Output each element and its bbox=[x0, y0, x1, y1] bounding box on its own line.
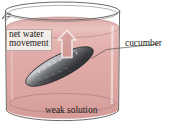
osmosis-diagram: net water movement cucumber weak solutio… bbox=[0, 0, 175, 129]
label-cucumber: cucumber bbox=[125, 39, 162, 49]
label-net-water-movement: net water movement bbox=[6, 29, 52, 51]
label-net-water-line1: net water bbox=[9, 29, 44, 39]
label-weak-solution: weak solution bbox=[45, 106, 97, 116]
label-net-water-line2: movement bbox=[9, 39, 49, 49]
